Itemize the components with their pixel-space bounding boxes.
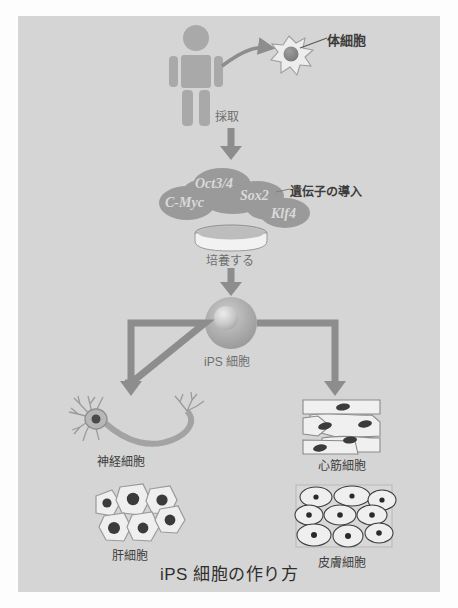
harvest-label: 採取 — [215, 107, 239, 124]
gene-label-klf4: Klf4 — [271, 206, 296, 222]
skin-cell-icon — [295, 485, 396, 547]
culture-dish-icon — [195, 225, 267, 251]
culture-label: 培養する — [206, 251, 254, 268]
figure-title: iPS 細胞の作り方 — [0, 560, 458, 585]
extraction-curve-arrow — [222, 47, 272, 66]
cardiac-muscle-label: 心筋細胞 — [318, 456, 366, 473]
gene-label-cmyc: C-Myc — [165, 195, 204, 211]
figure-root: 体細胞 採取 Oct3/4 C-Myc Sox2 Klf4 遺伝子の導入 培養す… — [0, 0, 458, 608]
ips-cell-label: iPS 細胞 — [204, 352, 250, 369]
neuron-icon — [69, 392, 204, 444]
neuron-label: 神経細胞 — [97, 452, 145, 469]
gene-introduction-label: 遺伝子の導入 — [290, 182, 362, 199]
gene-label-sox2: Sox2 — [240, 188, 269, 204]
ips-cell-icon — [205, 297, 257, 349]
somatic-cell-label: 体細胞 — [327, 30, 366, 49]
hepatocyte-icon — [96, 484, 185, 541]
branch-arrow-left — [120, 323, 205, 396]
somatic-cell-icon — [271, 36, 313, 75]
branch-arrow-right — [257, 323, 346, 396]
cardiac-muscle-icon — [303, 400, 380, 454]
harvest-arrow — [220, 128, 242, 160]
gene-label-oct34: Oct3/4 — [195, 176, 233, 192]
culture-arrow — [220, 268, 242, 296]
diagram-canvas — [0, 0, 458, 608]
